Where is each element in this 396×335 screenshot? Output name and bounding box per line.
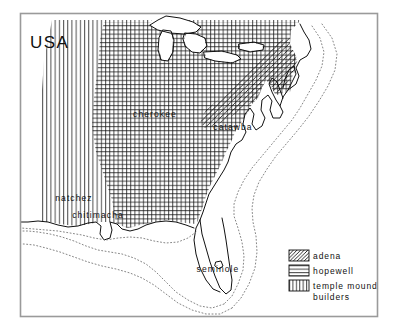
place-label-seminole: seminole [197, 264, 240, 274]
place-label-natchez: natchez [55, 193, 92, 203]
place-label-chitimacha: chitimacha [72, 210, 124, 220]
shelf-contour-gulf-shallow [21, 228, 196, 243]
map-canvas: USA cherokee catawba natchez chitimacha … [0, 0, 396, 335]
legend-label-temple-mound-line1: temple mound [313, 281, 378, 291]
legend-label-hopewell: hopewell [313, 266, 354, 276]
legend-item-hopewell[interactable]: hopewell [289, 265, 354, 276]
shelf-contour-gulf-outer [21, 244, 232, 314]
legend: adena hopewell temple mound builders [289, 250, 378, 302]
legend-swatch-temple-mound-builders [289, 280, 309, 291]
map-figure: USA cherokee catawba natchez chitimacha … [0, 0, 396, 335]
legend-swatch-hopewell [289, 265, 309, 276]
florida-west-coast [194, 220, 220, 292]
country-label: USA [30, 33, 69, 52]
shelf-contour-gulf-inner [21, 231, 224, 308]
legend-swatch-adena [289, 250, 309, 261]
florida-coastline [200, 218, 232, 294]
legend-label-temple-mound-line2: builders [313, 292, 350, 302]
legend-item-adena[interactable]: adena [289, 250, 341, 261]
legend-label-adena: adena [313, 251, 341, 261]
place-label-cherokee: cherokee [133, 109, 177, 119]
legend-item-temple-mound-builders[interactable]: temple mound builders [289, 280, 378, 302]
place-label-catawba: catawba [213, 122, 252, 132]
